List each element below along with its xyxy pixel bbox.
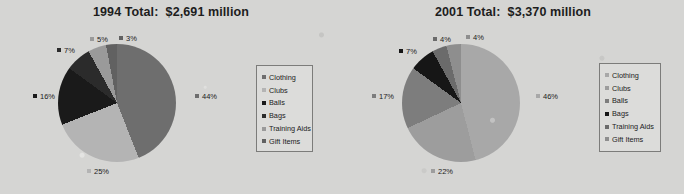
slice-marker-clothing <box>195 94 199 98</box>
slice-label-clubs-1994: 25% <box>87 166 109 176</box>
slice-label-training-aids-2001: 4% <box>433 34 451 44</box>
chart-title-1994: 1994 Total: $2,691 million <box>0 5 342 19</box>
pie-chart-1994 <box>58 44 176 162</box>
legend-swatch-training-aids <box>262 127 266 131</box>
legend-item-clubs[interactable]: Clubs <box>605 82 654 95</box>
slice-label-balls-2001: 17% <box>372 91 394 101</box>
slice-marker-gift-items <box>466 35 470 39</box>
slice-label-training-aids-1994: 5% <box>90 34 108 44</box>
legend-item-clothing[interactable]: Clothing <box>262 71 306 84</box>
slice-marker-training-aids <box>433 37 437 41</box>
legend-swatch-balls <box>262 101 266 105</box>
legend-item-balls[interactable]: Balls <box>605 95 654 108</box>
slice-marker-gift-items <box>119 36 123 40</box>
chart-panel-1994: 1994 Total: $2,691 million 44% 25% 16% 7… <box>0 0 342 194</box>
legend-item-training-aids[interactable]: Training Aids <box>605 120 654 133</box>
legend-item-clubs[interactable]: Clubs <box>262 84 306 97</box>
slice-marker-clothing <box>536 94 540 98</box>
legend-item-bags[interactable]: Bags <box>605 107 654 120</box>
slice-label-clothing-2001: 46% <box>536 91 558 101</box>
slice-label-clubs-2001: 22% <box>431 166 453 176</box>
legend-swatch-clubs <box>605 86 609 90</box>
chart-panel-2001: 2001 Total: $3,370 million 46% 22% 17% 7… <box>342 0 684 194</box>
slice-marker-bags <box>57 48 61 52</box>
legend-swatch-balls <box>605 99 609 103</box>
slice-marker-clubs <box>431 169 435 173</box>
chart-title-2001: 2001 Total: $3,370 million <box>342 5 684 19</box>
slice-label-gift-items-1994: 3% <box>119 33 137 43</box>
slice-marker-balls <box>33 94 37 98</box>
legend-swatch-clothing <box>262 75 266 79</box>
legend-swatch-gift-items <box>605 137 609 141</box>
legend-swatch-clothing <box>605 73 609 77</box>
slice-label-gift-items-2001: 4% <box>466 32 484 42</box>
legend-item-gift-items[interactable]: Gift Items <box>262 135 306 148</box>
slice-marker-training-aids <box>90 37 94 41</box>
legend-swatch-clubs <box>262 88 266 92</box>
slice-label-balls-1994: 16% <box>33 91 55 101</box>
slice-label-bags-2001: 7% <box>399 46 417 56</box>
slice-marker-balls <box>372 94 376 98</box>
legend-item-bags[interactable]: Bags <box>262 109 306 122</box>
slice-marker-clubs <box>87 169 91 173</box>
legend-swatch-training-aids <box>605 125 609 129</box>
pie-chart-2001 <box>402 44 520 162</box>
slice-label-bags-1994: 7% <box>57 45 75 55</box>
legend-swatch-bags <box>262 114 266 118</box>
slice-marker-bags <box>399 49 403 53</box>
slice-label-clothing-1994: 44% <box>195 91 217 101</box>
legend-item-gift-items[interactable]: Gift Items <box>605 133 654 146</box>
legend-1994: Clothing Clubs Balls Bags Training Aids … <box>256 65 313 152</box>
legend-item-clothing[interactable]: Clothing <box>605 69 654 82</box>
legend-2001: Clothing Clubs Balls Bags Training Aids … <box>599 63 661 152</box>
legend-item-balls[interactable]: Balls <box>262 97 306 110</box>
legend-swatch-gift-items <box>262 139 266 143</box>
legend-item-training-aids[interactable]: Training Aids <box>262 122 306 135</box>
legend-swatch-bags <box>605 112 609 116</box>
